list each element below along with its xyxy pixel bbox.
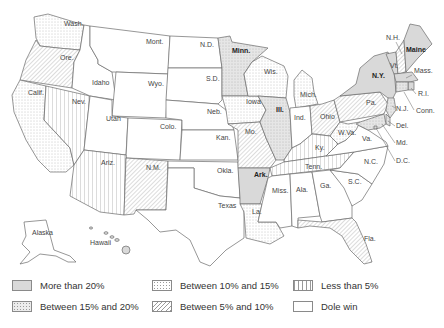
- label-nj: N.J.: [396, 105, 409, 112]
- us-map: Wash. Ore. Calif. Nev. Idaho Mont. Wyo. …: [0, 0, 444, 270]
- label-sc: S.C.: [348, 178, 362, 185]
- label-colo: Colo.: [160, 123, 176, 130]
- label-mont: Mont.: [146, 38, 164, 45]
- label-maine: Maine: [406, 46, 426, 53]
- label-pa: Pa.: [366, 99, 377, 106]
- state-nj: [386, 98, 396, 118]
- label-utah: Utah: [106, 115, 121, 122]
- label-neb: Neb.: [207, 108, 222, 115]
- label-nd: N.D.: [200, 41, 214, 48]
- state-mich: [294, 70, 318, 108]
- label-mich: Mich.: [300, 91, 317, 98]
- label-tenn: Tenn.: [305, 163, 322, 170]
- label-ark: Ark.: [254, 171, 268, 178]
- label-kan: Kan.: [216, 134, 230, 141]
- label-ohio: Ohio: [320, 113, 335, 120]
- state-sd: [166, 68, 222, 104]
- state-wyo: [112, 72, 168, 118]
- state-hawaii-big-island: [122, 246, 130, 254]
- legend-item-between-10-15: Between 10% and 15%: [152, 278, 279, 292]
- legend-item-more-than-20: More than 20%: [12, 278, 104, 292]
- legend-label: Less than 5%: [321, 280, 379, 291]
- state-ariz: [70, 150, 126, 215]
- label-texas: Texas: [218, 202, 237, 209]
- label-wva: W.Va.: [338, 129, 356, 136]
- legend-item-less-than-5: Less than 5%: [293, 278, 379, 292]
- label-ny: N.Y.: [372, 72, 385, 79]
- legend-swatch-white: [293, 301, 313, 312]
- legend-swatch-gray-dotted: [12, 301, 32, 312]
- legend-label: More than 20%: [40, 280, 104, 291]
- label-ga: Ga.: [320, 182, 331, 189]
- label-okla: Okla.: [217, 167, 233, 174]
- legend-label: Between 5% and 10%: [180, 301, 273, 312]
- label-wash: Wash.: [64, 20, 84, 27]
- state-hawaii-island: [110, 236, 114, 239]
- label-ill: Ill.: [276, 106, 284, 113]
- legend-item-dole-win: Dole win: [293, 299, 357, 313]
- state-hawaii-island: [104, 232, 108, 235]
- label-va: Va.: [362, 135, 372, 142]
- legend-swatch-dotted: [152, 280, 172, 291]
- state-hawaii-island: [89, 227, 92, 229]
- label-dc: D.C.: [396, 157, 410, 164]
- legend-swatch-solid-gray: [12, 280, 32, 291]
- label-nc: N.C.: [364, 158, 378, 165]
- state-alaska: [20, 220, 76, 264]
- label-nh: N.H.: [386, 34, 400, 41]
- label-ore: Ore.: [60, 54, 74, 61]
- label-ariz: Ariz.: [101, 159, 115, 166]
- label-md: Md.: [396, 139, 408, 146]
- legend-item-between-15-20: Between 15% and 20%: [12, 299, 139, 313]
- state-fla: [298, 218, 372, 264]
- label-nm: N.M.: [146, 164, 161, 171]
- state-ny: [340, 52, 396, 100]
- label-ala: Ala.: [296, 186, 308, 193]
- label-vt: Vt.: [390, 62, 399, 69]
- label-idaho: Idaho: [92, 79, 110, 86]
- label-conn: Conn.: [416, 107, 435, 114]
- label-la: La.: [252, 208, 262, 215]
- legend-label: Between 15% and 20%: [40, 301, 139, 312]
- label-sd: S.D.: [206, 75, 220, 82]
- legend-swatch-diagonal-hatch: [152, 301, 172, 312]
- label-fla: Fla.: [364, 235, 376, 242]
- label-ky: Ky.: [315, 144, 325, 152]
- label-calif: Calif.: [28, 89, 44, 96]
- label-ri: R.I.: [418, 90, 429, 97]
- label-alaska: Alaska: [32, 229, 53, 236]
- label-mo: Mo.: [245, 128, 257, 135]
- label-wyo: Wyo.: [148, 80, 164, 88]
- label-ind: Ind.: [294, 114, 306, 121]
- label-wis: Wis.: [264, 68, 278, 75]
- label-del: Del.: [396, 122, 409, 129]
- label-nev: Nev.: [72, 98, 86, 105]
- label-minn: Minn.: [232, 47, 250, 54]
- label-miss: Miss.: [272, 187, 288, 194]
- legend-label: Dole win: [321, 301, 357, 312]
- legend-item-between-5-10: Between 5% and 10%: [152, 299, 273, 313]
- legend-label: Between 10% and 15%: [180, 280, 279, 291]
- state-ri: [408, 82, 414, 90]
- label-hawaii: Hawaii: [90, 239, 111, 246]
- legend: More than 20% Between 15% and 20% Betwee…: [0, 278, 444, 328]
- state-hawaii-island: [115, 239, 119, 242]
- label-iowa: Iowa: [246, 98, 261, 105]
- label-mass: Mass.: [414, 67, 433, 74]
- state-conn: [396, 82, 408, 92]
- legend-swatch-vertical-lines: [293, 280, 313, 291]
